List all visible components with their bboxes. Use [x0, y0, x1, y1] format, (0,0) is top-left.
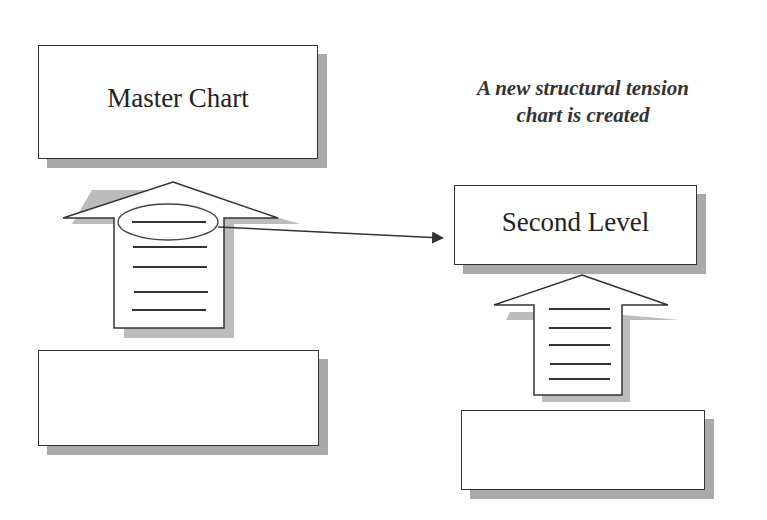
second-level-label: Second Level: [455, 207, 696, 238]
caption-line-2: chart is created: [418, 102, 748, 129]
master-chart-label: Master Chart: [39, 83, 317, 114]
master-chart-box: Master Chart: [38, 45, 318, 159]
caption-line-1: A new structural tension: [418, 75, 748, 102]
right-up-arrow-icon: [494, 275, 668, 395]
bottom-right-box: [461, 410, 705, 490]
second-level-box: Second Level: [454, 185, 697, 265]
caption: A new structural tension chart is create…: [418, 75, 748, 129]
bottom-left-box: [38, 350, 319, 446]
connector-arrow: [218, 227, 442, 238]
